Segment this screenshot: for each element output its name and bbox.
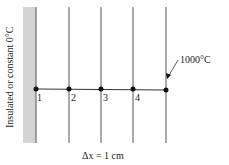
node-label-1: 1 [37, 92, 42, 103]
node-5 [164, 88, 169, 93]
node-4 [131, 87, 136, 92]
node-3 [99, 87, 104, 92]
node-label-2: 2 [71, 92, 76, 103]
node-1 [34, 87, 39, 92]
node-label-3: 3 [103, 92, 108, 103]
spacing-label: Δx = 1 cm [82, 150, 124, 161]
insulated-wall [23, 7, 36, 143]
node-label-4: 4 [135, 92, 140, 103]
node-grid-diagram [0, 0, 229, 165]
boundary-temp-label: 1000°C [180, 54, 211, 65]
node-2 [67, 87, 72, 92]
wall-label: Insulated or constant 0°C [4, 27, 15, 128]
